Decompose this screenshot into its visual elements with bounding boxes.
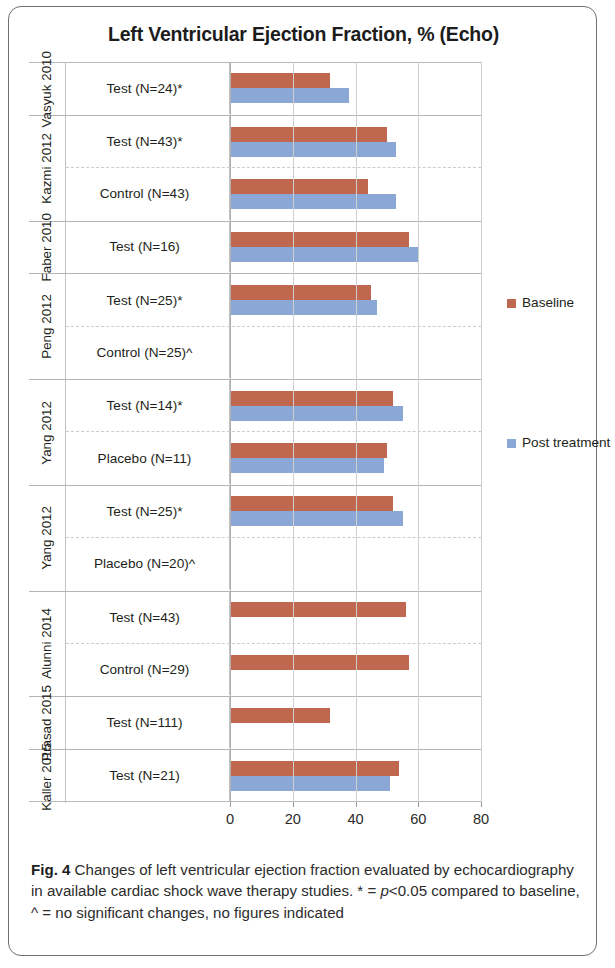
legend-item-baseline[interactable]: Baseline xyxy=(507,295,574,312)
arm-label: Test (N=24)* xyxy=(66,63,230,114)
chart-row: Test (N=21) xyxy=(66,750,481,803)
study-rows: Test (N=25)*Placebo (N=20)^ xyxy=(66,486,481,591)
x-tick-label: 20 xyxy=(285,811,301,827)
bar-pair xyxy=(230,127,481,157)
arm-label: Test (N=21) xyxy=(66,750,230,802)
study-group-label: Yang 2012 xyxy=(29,486,66,591)
chart-row: Test (N=43) xyxy=(66,592,481,644)
study-name: Faber 2010 xyxy=(40,213,54,282)
x-tick-label: 60 xyxy=(410,811,426,827)
row-plot-area xyxy=(230,538,481,589)
gridline xyxy=(481,62,482,802)
x-tick-mark xyxy=(418,802,419,807)
study-group-label: Kaller 2015 xyxy=(29,750,66,803)
chart-rows-container: Vasyuk 2010Test (N=24)*Kazmi 2012Test (N… xyxy=(29,62,481,802)
bar-pair xyxy=(230,655,481,685)
row-plot-area xyxy=(230,380,481,431)
bar-baseline xyxy=(230,443,387,458)
legend-label: Baseline xyxy=(522,295,574,312)
bar-pair xyxy=(230,761,481,791)
bar-baseline xyxy=(230,391,393,406)
arm-label: Placebo (N=20)^ xyxy=(66,538,230,589)
study-group-label: Vasyuk 2010 xyxy=(29,63,66,115)
chart-row: Test (N=111) xyxy=(66,697,481,749)
bar-baseline xyxy=(230,285,371,300)
bar-pair xyxy=(230,708,481,738)
chart-row: Test (N=24)* xyxy=(66,63,481,115)
x-tick-label: 80 xyxy=(473,811,489,827)
bar-pair xyxy=(230,602,481,632)
row-plot-area xyxy=(230,592,481,643)
chart-row: Test (N=14)* xyxy=(66,380,481,432)
figure-card: Left Ventricular Ejection Fraction, % (E… xyxy=(8,6,597,956)
study-group: Yang 2012Test (N=25)*Placebo (N=20)^ xyxy=(29,486,481,592)
study-group: Prasad 2015Test (N=111) xyxy=(29,697,481,750)
bar-post-treatment xyxy=(230,511,403,526)
bar-baseline xyxy=(230,179,368,194)
arm-label: Control (N=29) xyxy=(66,644,230,695)
bar-post-treatment xyxy=(230,142,396,157)
study-group: Yang 2012Test (N=14)*Placebo (N=11) xyxy=(29,380,481,486)
chart-row: Placebo (N=11) xyxy=(66,432,481,484)
bar-pair xyxy=(230,179,481,209)
bar-post-treatment xyxy=(230,194,396,209)
study-name: Alunni 2014 xyxy=(40,608,54,679)
chart-row: Test (N=16) xyxy=(66,222,481,274)
bar-baseline xyxy=(230,232,409,247)
row-plot-area xyxy=(230,116,481,167)
x-tick-mark xyxy=(293,802,294,807)
figure-caption: Fig. 4 Changes of left ventricular eject… xyxy=(31,859,583,923)
study-group-label: Peng 2012 xyxy=(29,274,66,379)
legend-swatch-icon xyxy=(507,439,516,448)
chart-row: Test (N=43)* xyxy=(66,116,481,168)
bar-post-treatment xyxy=(230,406,403,421)
study-group: Vasyuk 2010Test (N=24)* xyxy=(29,63,481,116)
arm-label: Test (N=111) xyxy=(66,697,230,748)
bar-baseline xyxy=(230,496,393,511)
study-rows: Test (N=25)*Control (N=25)^ xyxy=(66,274,481,379)
arm-label: Test (N=25)* xyxy=(66,486,230,537)
study-group: Alunni 2014Test (N=43)Control (N=29) xyxy=(29,592,481,698)
bar-pair xyxy=(230,496,481,526)
bar-baseline xyxy=(230,761,399,776)
chart-row: Control (N=43) xyxy=(66,168,481,220)
study-name: Peng 2012 xyxy=(40,294,54,359)
arm-label: Test (N=14)* xyxy=(66,380,230,431)
study-rows: Test (N=24)* xyxy=(66,63,481,115)
study-group-label: Kazmi 2012 xyxy=(29,116,66,221)
arm-label: Test (N=25)* xyxy=(66,274,230,325)
bar-pair xyxy=(230,73,481,103)
row-plot-area xyxy=(230,644,481,695)
bar-baseline xyxy=(230,708,330,723)
study-group-label: Faber 2010 xyxy=(29,222,66,274)
bar-post-treatment xyxy=(230,88,349,103)
legend-label: Post treatment xyxy=(522,435,610,452)
study-rows: Test (N=21) xyxy=(66,750,481,803)
row-plot-area xyxy=(230,274,481,325)
chart-legend: BaselinePost treatment xyxy=(507,62,615,802)
caption-p-italic: p xyxy=(380,882,388,899)
bar-baseline xyxy=(230,73,330,88)
bar-pair xyxy=(230,391,481,421)
x-tick-label: 40 xyxy=(347,811,363,827)
study-group-label: Yang 2012 xyxy=(29,380,66,485)
study-rows: Test (N=43)Control (N=29) xyxy=(66,592,481,697)
study-name: Yang 2012 xyxy=(40,506,54,570)
row-plot-area xyxy=(230,750,481,802)
arm-label: Control (N=43) xyxy=(66,168,230,219)
study-rows: Test (N=43)*Control (N=43) xyxy=(66,116,481,221)
chart-row: Placebo (N=20)^ xyxy=(66,538,481,590)
study-group: Kazmi 2012Test (N=43)*Control (N=43) xyxy=(29,116,481,222)
row-plot-area xyxy=(230,222,481,273)
figure-number: Fig. 4 xyxy=(31,861,70,878)
study-rows: Test (N=14)*Placebo (N=11) xyxy=(66,380,481,485)
x-tick-mark xyxy=(481,802,482,807)
study-group: Peng 2012Test (N=25)*Control (N=25)^ xyxy=(29,274,481,380)
x-axis: 020406080 xyxy=(230,802,481,842)
row-plot-area xyxy=(230,432,481,483)
legend-item-post[interactable]: Post treatment xyxy=(507,435,610,452)
study-rows: Test (N=16) xyxy=(66,222,481,274)
x-tick-mark xyxy=(356,802,357,807)
arm-label: Test (N=43) xyxy=(66,592,230,643)
bar-pair xyxy=(230,443,481,473)
